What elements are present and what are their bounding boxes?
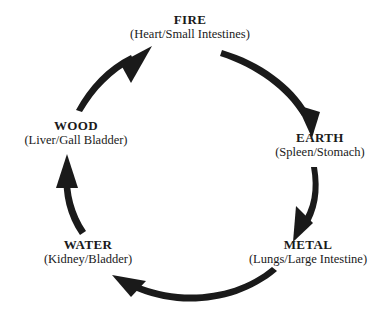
arrow-wood-to-fire xyxy=(76,46,152,112)
node-fire-title: FIRE xyxy=(130,13,250,27)
node-earth: EARTH (Spleen/Stomach) xyxy=(275,131,365,160)
node-fire-organs: (Heart/Small Intestines) xyxy=(130,28,250,42)
five-element-cycle-diagram: FIRE (Heart/Small Intestines) EARTH (Spl… xyxy=(0,0,381,322)
node-metal-organs: (Lungs/Large Intestine) xyxy=(249,253,367,267)
node-water-title: WATER xyxy=(44,238,132,252)
node-earth-organs: (Spleen/Stomach) xyxy=(275,146,365,160)
node-fire: FIRE (Heart/Small Intestines) xyxy=(130,13,250,42)
node-wood: WOOD (Liver/Gall Bladder) xyxy=(24,119,127,148)
node-wood-title: WOOD xyxy=(24,119,127,133)
node-metal: METAL (Lungs/Large Intestine) xyxy=(249,238,367,267)
arrow-metal-to-water xyxy=(112,267,277,302)
cycle-arrows-svg xyxy=(0,0,381,322)
node-water: WATER (Kidney/Bladder) xyxy=(44,238,132,267)
node-earth-title: EARTH xyxy=(275,131,365,145)
node-wood-organs: (Liver/Gall Bladder) xyxy=(24,134,127,148)
arrow-earth-to-metal xyxy=(293,167,319,242)
arrow-fire-to-earth xyxy=(220,50,320,138)
arrow-water-to-wood xyxy=(56,154,86,235)
node-water-organs: (Kidney/Bladder) xyxy=(44,253,132,267)
node-metal-title: METAL xyxy=(249,238,367,252)
